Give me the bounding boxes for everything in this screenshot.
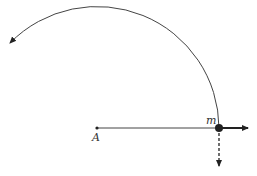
diagram-canvas: A m [0,0,257,176]
diagram-svg [0,0,257,176]
trajectory-arc [10,7,219,128]
label-center: A [92,131,100,144]
label-mass: m [206,114,216,127]
center-point [95,126,98,129]
